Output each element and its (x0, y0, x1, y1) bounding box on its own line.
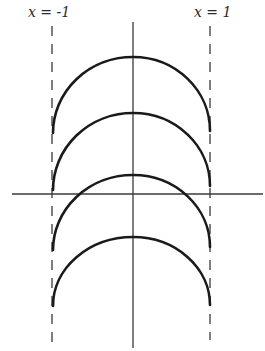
arc-curve-3 (53, 175, 210, 250)
axes (12, 22, 263, 348)
diagram-figure: x = -1 x = 1 (0, 0, 265, 351)
right-boundary-label: x = 1 (194, 5, 231, 19)
boundary-lines (52, 26, 210, 342)
plot-canvas (0, 0, 265, 351)
solution-curves (53, 57, 210, 306)
arc-curve-4 (53, 237, 210, 306)
left-boundary-label: x = -1 (28, 5, 70, 19)
arc-curve-1 (53, 57, 210, 133)
arc-curve-2 (53, 113, 210, 190)
